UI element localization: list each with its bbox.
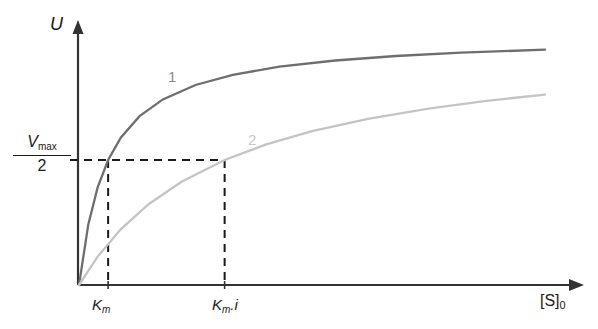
- michaelis-menten-figure: U [S]0 Vmax 2 Km Km.i 1 2: [0, 0, 598, 329]
- x-tick-label-kmi: Km.i: [212, 296, 238, 315]
- x-tick-kmi-symbol: K: [212, 296, 222, 313]
- x-tick-label-km: Km: [92, 296, 110, 315]
- y-tick-label-half-vmax: Vmax 2: [13, 134, 71, 175]
- y-axis-label: U: [50, 14, 63, 35]
- x-axis-arrowhead: [569, 279, 584, 291]
- y-axis: [73, 20, 84, 285]
- x-axis-label-subscript: 0: [560, 299, 566, 311]
- y-axis-arrowhead: [73, 20, 84, 34]
- x-axis-label-main: [S]: [540, 292, 560, 309]
- half-vmax-numerator: Vmax: [13, 134, 71, 153]
- x-tick-km-symbol: K: [92, 296, 102, 313]
- x-axis-label: [S]0: [540, 292, 566, 311]
- curve-label-1: 1: [168, 68, 176, 85]
- x-tick-kmi-suffix: .i: [230, 296, 238, 313]
- half-vmax-subscript: max: [38, 141, 57, 152]
- curve-label-2: 2: [248, 131, 256, 148]
- curve-2: [79, 95, 545, 285]
- plot-canvas: [0, 0, 598, 329]
- x-axis: [78, 279, 584, 291]
- curve-1: [79, 50, 545, 285]
- half-vmax-denominator: 2: [13, 157, 71, 175]
- half-vmax-symbol: V: [27, 133, 38, 150]
- fraction-bar: [13, 155, 71, 157]
- x-tick-km-subscript: m: [102, 304, 110, 315]
